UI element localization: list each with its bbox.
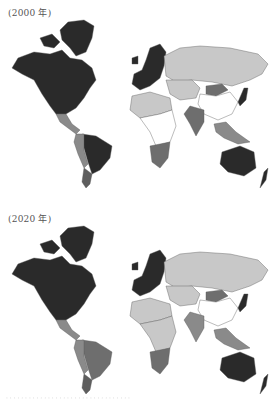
region-india [184, 312, 204, 342]
region-south-america-brazil [82, 134, 112, 174]
region-australia [220, 146, 256, 176]
region-australia [220, 352, 256, 382]
region-new-zealand [260, 374, 268, 394]
region-south-america-south [82, 374, 92, 394]
region-japan [238, 88, 248, 106]
region-greenland [60, 20, 94, 56]
region-europe [132, 44, 166, 90]
region-south-america-south [82, 168, 92, 188]
region-india [184, 106, 204, 136]
region-greenland [60, 226, 94, 262]
region-central-asia [166, 80, 200, 100]
region-africa-south [150, 142, 170, 168]
region-africa-south [150, 348, 170, 374]
region-europe [132, 250, 166, 296]
region-south-america-brazil [82, 340, 112, 380]
region-southeast-asia [214, 328, 250, 350]
region-central-america [56, 114, 80, 134]
region-southeast-asia [214, 122, 250, 144]
region-new-zealand [260, 168, 268, 188]
figure-caption: · · · · · · · · · · · · · · · · · · · · … [6, 394, 273, 402]
world-map-2000 [0, 18, 279, 188]
region-central-asia [166, 286, 200, 306]
region-central-america [56, 320, 80, 340]
world-map-2020 [0, 224, 279, 394]
region-japan [238, 294, 248, 312]
